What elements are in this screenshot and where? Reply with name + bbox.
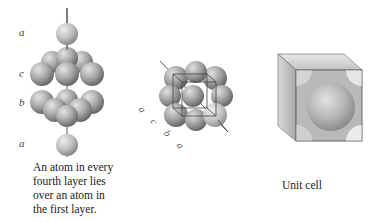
- layer-c-atoms: [30, 47, 104, 86]
- atom-layer-a-bottom: [56, 134, 78, 156]
- layer-label-a-top: a: [19, 26, 25, 38]
- atom-layer-a-top: [56, 23, 78, 45]
- layer-stack-panel: a c b a An atom in every fourth layer li…: [0, 0, 140, 222]
- fcc-atoms: [159, 61, 233, 131]
- unit-cell-panel: Unit cell: [260, 20, 382, 210]
- unit-cell-caption: Unit cell: [282, 178, 322, 192]
- layer-b-atoms: [30, 89, 104, 127]
- layer-label-a-bottom: a: [19, 137, 25, 149]
- fcc-rotated-panel: a c b a: [140, 20, 260, 160]
- layer-label-b: b: [19, 96, 25, 108]
- layer-label-c: c: [19, 67, 24, 79]
- face-centered-atom: [307, 83, 355, 131]
- layer-stack-illustration: [0, 0, 140, 160]
- unit-cell-illustration: [260, 20, 382, 170]
- fcc-rotated-illustration: [140, 20, 260, 160]
- layer-stack-caption: An atom in every fourth layer lies over …: [33, 160, 113, 216]
